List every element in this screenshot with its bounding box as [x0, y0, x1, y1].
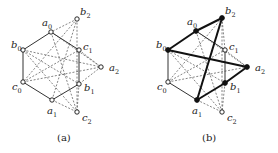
solid-edge-c0-a1: [23, 82, 52, 100]
node-label-b2: b2: [80, 6, 91, 20]
panel-a: a0b2b0c1a2c0b1a1c2: [11, 6, 119, 126]
node-label-b0: b0: [11, 39, 22, 53]
node-c0: [21, 80, 25, 84]
node-a2: [245, 65, 250, 70]
dashed-edge-c0-a2: [23, 67, 101, 82]
node-c1: [77, 48, 81, 52]
node-label-c1: c1: [229, 41, 239, 55]
node-label-c2: c2: [227, 112, 237, 126]
node-label-a2: a2: [109, 62, 119, 76]
bold-edge-b0-a0: [168, 31, 196, 50]
node-label-c1: c1: [83, 41, 93, 55]
node-label-b1: b1: [84, 82, 95, 96]
node-a1: [195, 98, 200, 103]
node-b2: [75, 17, 79, 21]
node-b1: [77, 82, 81, 86]
node-label-a0: a0: [42, 17, 52, 31]
node-a1: [50, 98, 54, 102]
node-c2: [75, 110, 79, 114]
caption-a: (a): [57, 132, 71, 143]
node-label-a1: a1: [192, 105, 202, 119]
graph-figure: a0b2b0c1a2c0b1a1c2 a0b2b0c1a2c0b1a1c2 (a…: [0, 0, 278, 153]
dashed-edge-b2-a0: [51, 19, 77, 32]
node-label-c0: c0: [157, 81, 167, 95]
solid-edge-c1-a0: [51, 32, 79, 50]
dashed-edge-b0-c2: [23, 50, 77, 112]
node-c2: [220, 110, 224, 114]
solid-edge-a0-b0: [23, 32, 51, 50]
panel-b: a0b2b0c1a2c0b1a1c2: [156, 5, 265, 126]
node-b2: [220, 16, 225, 21]
node-c1: [223, 48, 227, 52]
node-c0: [166, 80, 170, 84]
dashed-edge-c0-c1: [168, 50, 225, 82]
node-b1: [223, 81, 228, 86]
solid-edge-a1-b1: [52, 84, 79, 100]
node-label-b1: b1: [230, 81, 241, 95]
node-label-a1: a1: [47, 105, 57, 119]
node-label-a0: a0: [187, 16, 197, 30]
node-a2: [99, 65, 103, 69]
node-label-b0: b0: [156, 39, 167, 53]
dashed-edge-a0-c2: [196, 31, 222, 112]
dashed-edge-c0-c1: [23, 50, 79, 82]
node-label-a2: a2: [255, 62, 265, 76]
dashed-edge-b2-c1: [222, 18, 225, 50]
solid-edge-a0-c1: [196, 31, 225, 50]
caption-b: (b): [202, 132, 216, 143]
node-label-b2: b2: [225, 5, 236, 19]
node-label-c0: c0: [12, 81, 22, 95]
node-label-c2: c2: [82, 112, 92, 126]
dashed-edge-b1-c2: [222, 83, 225, 112]
solid-edge-c0-a1: [168, 82, 197, 100]
